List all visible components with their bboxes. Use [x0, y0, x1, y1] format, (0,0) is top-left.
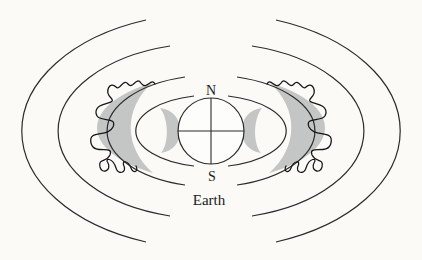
diagram-canvas: N S Earth — [0, 0, 422, 260]
earth-label: Earth — [193, 192, 226, 208]
magnetosphere-diagram: N S Earth — [0, 0, 422, 260]
south-pole-label: S — [208, 169, 216, 184]
north-pole-label: N — [206, 83, 216, 98]
